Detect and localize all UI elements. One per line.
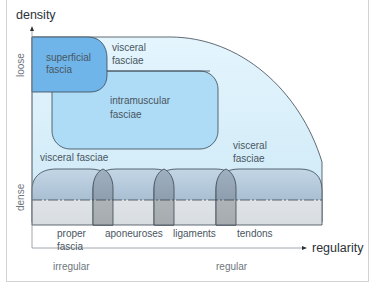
y-axis-low-label: dense xyxy=(15,183,26,211)
x-axis-arrow-icon xyxy=(302,246,307,250)
overlap-aponeuroses-ligaments xyxy=(154,169,174,225)
fascia-diagram: superficial fascia visceral fasciae intr… xyxy=(0,0,375,288)
overlap-ligaments-tendons xyxy=(216,169,236,225)
category-tendons: tendons xyxy=(237,228,273,239)
x-axis-title: regularity xyxy=(312,241,364,255)
y-axis-title: density xyxy=(16,8,56,22)
label-visceral-fasciae-left: visceral fasciae xyxy=(40,152,109,163)
y-axis-arrow-icon xyxy=(30,26,34,31)
x-axis-low-label: irregular xyxy=(53,261,90,272)
category-ligaments: ligaments xyxy=(173,228,216,239)
overlap-proper-aponeuroses xyxy=(93,169,113,225)
x-axis-high-label: regular xyxy=(216,261,248,272)
category-aponeuroses: aponeuroses xyxy=(105,228,163,239)
y-axis-high-label: loose xyxy=(15,53,26,77)
